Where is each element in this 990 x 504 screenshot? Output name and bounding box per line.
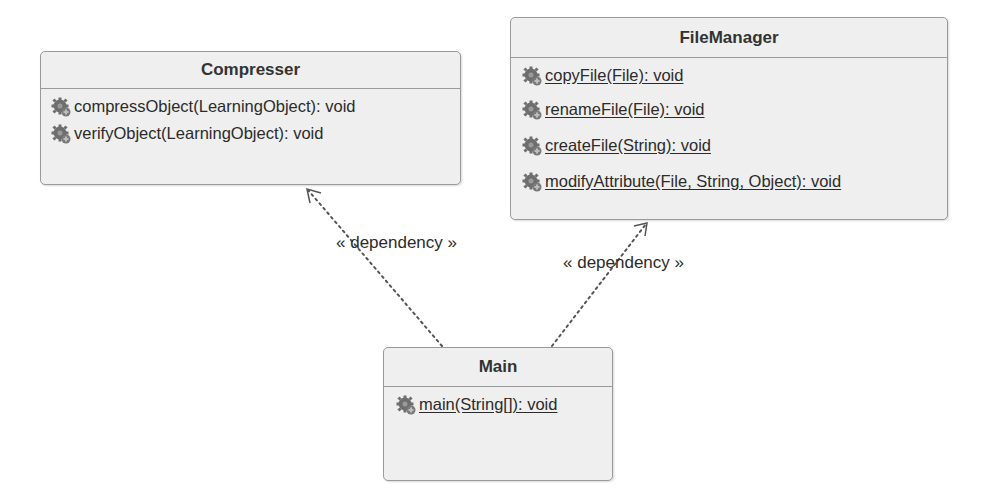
dependency-label-compresser: « dependency » <box>336 233 457 253</box>
gear-icon <box>522 100 542 120</box>
gear-icon <box>396 395 416 415</box>
dependency-label-filemanager: « dependency » <box>563 253 684 273</box>
operation-signature: verifyObject(LearningObject): void <box>74 124 323 143</box>
class-title: FileManager <box>511 18 947 58</box>
operation-signature: modifyAttribute(File, String, Object): v… <box>545 172 841 191</box>
class-compresser[interactable]: Compresser compressObject(LearningObject… <box>40 51 461 185</box>
dependency-line-filemanager[interactable] <box>552 224 646 346</box>
operations-list: compressObject(LearningObject): void ver… <box>41 89 460 147</box>
class-filemanager[interactable]: FileManager copyFile(File): void renameF… <box>510 17 948 220</box>
dependency-line-compresser[interactable] <box>308 190 442 346</box>
class-main[interactable]: Main main(String[]): void <box>383 347 613 481</box>
gear-icon <box>522 172 542 192</box>
operation-item[interactable]: main(String[]): void <box>396 391 612 418</box>
operation-signature: copyFile(File): void <box>545 66 683 85</box>
operation-signature: renameFile(File): void <box>545 100 705 119</box>
gear-icon <box>51 124 71 144</box>
gear-icon <box>522 136 542 156</box>
gear-icon <box>522 66 542 86</box>
operation-item[interactable]: renameFile(File): void <box>522 96 947 123</box>
operation-item[interactable]: verifyObject(LearningObject): void <box>51 120 460 147</box>
gear-icon <box>51 97 71 117</box>
class-title: Main <box>384 348 612 387</box>
operation-item[interactable]: compressObject(LearningObject): void <box>51 93 460 120</box>
operations-list: main(String[]): void <box>384 387 612 418</box>
operation-signature: compressObject(LearningObject): void <box>74 97 356 116</box>
operation-item[interactable]: modifyAttribute(File, String, Object): v… <box>522 168 947 195</box>
class-title: Compresser <box>41 52 460 89</box>
operations-list: copyFile(File): void renameFile(File): v… <box>511 58 947 195</box>
operation-item[interactable]: copyFile(File): void <box>522 62 947 89</box>
operation-signature: main(String[]): void <box>419 395 557 414</box>
operation-signature: createFile(String): void <box>545 136 711 155</box>
operation-item[interactable]: createFile(String): void <box>522 132 947 159</box>
